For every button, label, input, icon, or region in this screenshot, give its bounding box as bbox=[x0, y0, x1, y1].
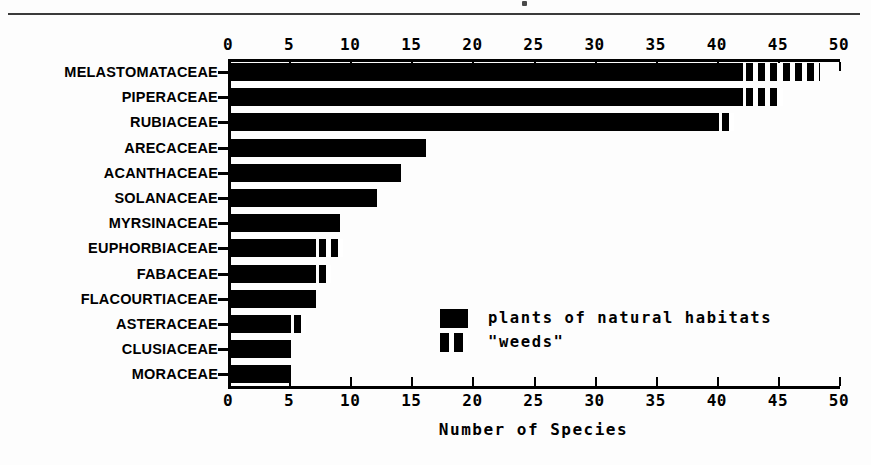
x-tick-bottom-20 bbox=[472, 377, 474, 386]
x-ticklabel-bottom-5: 5 bbox=[284, 391, 294, 410]
y-tick-11 bbox=[218, 348, 228, 351]
x-ticklabel-bottom-30: 30 bbox=[584, 391, 604, 410]
x-tick-bottom-25 bbox=[534, 377, 536, 386]
bar-segment-weeds bbox=[294, 315, 306, 333]
x-ticklabel-bottom-50: 50 bbox=[829, 391, 849, 410]
legend-entry-weeds: "weeds" bbox=[440, 330, 772, 354]
category-label: MORACEAE bbox=[132, 366, 218, 382]
category-label: MELASTOMATACEAE bbox=[64, 64, 218, 80]
chart-legend: plants of natural habitats "weeds" bbox=[440, 306, 772, 354]
bar-segment-natural bbox=[230, 88, 743, 106]
x-ticklabel-top-15: 15 bbox=[401, 35, 421, 54]
bar-segment-natural bbox=[230, 164, 401, 182]
bar-segment-natural bbox=[230, 239, 316, 257]
bar-segment-natural bbox=[230, 189, 377, 207]
x-ticklabel-bottom-45: 45 bbox=[768, 391, 788, 410]
y-tick-7 bbox=[218, 247, 228, 250]
y-tick-5 bbox=[218, 197, 228, 200]
y-tick-4 bbox=[218, 172, 228, 175]
legend-entry-natural: plants of natural habitats bbox=[440, 306, 772, 330]
category-label: ACANTHACEAE bbox=[104, 165, 218, 181]
legend-swatch-striped bbox=[440, 333, 468, 352]
y-tick-9 bbox=[218, 298, 228, 301]
bar-segment-natural bbox=[230, 340, 291, 358]
x-ticklabel-top-45: 45 bbox=[768, 35, 788, 54]
category-label: ASTERACEAE bbox=[116, 316, 218, 332]
category-label: FLACOURTIACEAE bbox=[81, 291, 218, 307]
x-ticklabel-bottom-35: 35 bbox=[646, 391, 666, 410]
x-ticklabel-top-35: 35 bbox=[646, 35, 666, 54]
x-ticklabel-top-10: 10 bbox=[340, 35, 360, 54]
x-ticklabel-top-0: 0 bbox=[223, 35, 233, 54]
x-ticklabel-top-25: 25 bbox=[523, 35, 543, 54]
x-tick-bottom-10 bbox=[350, 377, 352, 386]
x-ticklabel-top-30: 30 bbox=[584, 35, 604, 54]
bar-segment-weeds bbox=[746, 88, 783, 106]
category-label: CLUSIACEAE bbox=[122, 341, 218, 357]
y-tick-10 bbox=[218, 323, 228, 326]
x-ticklabel-bottom-25: 25 bbox=[523, 391, 543, 410]
bar-segment-natural bbox=[230, 315, 291, 333]
category-label: EUPHORBIACEAE bbox=[88, 240, 218, 256]
bar-segment-natural bbox=[230, 365, 291, 383]
bar-segment-weeds bbox=[746, 63, 819, 81]
legend-label-weeds: "weeds" bbox=[488, 333, 565, 351]
category-label: MYRSINACEAE bbox=[109, 215, 218, 231]
bar-segment-weeds bbox=[722, 113, 734, 131]
x-tick-bottom-50 bbox=[839, 377, 841, 386]
bar-segment-natural bbox=[230, 63, 743, 81]
y-tick-3 bbox=[218, 147, 228, 150]
x-ticklabel-top-20: 20 bbox=[462, 35, 482, 54]
y-tick-1 bbox=[218, 96, 228, 99]
category-label: FABACEAE bbox=[137, 266, 218, 282]
bar-segment-natural bbox=[230, 265, 316, 283]
x-tick-bottom-15 bbox=[411, 377, 413, 386]
y-tick-0 bbox=[218, 71, 228, 74]
x-ticklabel-bottom-15: 15 bbox=[401, 391, 421, 410]
legend-swatch-solid bbox=[440, 309, 468, 328]
x-ticklabel-bottom-10: 10 bbox=[340, 391, 360, 410]
category-label: SOLANACEAE bbox=[114, 190, 218, 206]
y-tick-2 bbox=[218, 121, 228, 124]
bar-segment-natural bbox=[230, 139, 426, 157]
bar-segment-weeds bbox=[319, 265, 331, 283]
x-ticklabel-top-40: 40 bbox=[707, 35, 727, 54]
y-tick-12 bbox=[218, 373, 228, 376]
x-tick-bottom-30 bbox=[595, 377, 597, 386]
x-tick-top-50 bbox=[839, 62, 841, 71]
legend-label-natural: plants of natural habitats bbox=[488, 309, 772, 327]
x-tick-bottom-40 bbox=[717, 377, 719, 386]
y-tick-8 bbox=[218, 273, 228, 276]
y-tick-6 bbox=[218, 222, 228, 225]
x-tick-bottom-35 bbox=[656, 377, 658, 386]
category-axis-labels: MELASTOMATACEAEPIPERACEAERUBIACEAEARECAC… bbox=[0, 59, 218, 389]
x-ticklabel-bottom-40: 40 bbox=[707, 391, 727, 410]
axis-line-bottom bbox=[228, 386, 840, 389]
category-label: RUBIACEAE bbox=[130, 114, 218, 130]
x-ticklabel-bottom-0: 0 bbox=[223, 391, 233, 410]
category-label: PIPERACEAE bbox=[122, 89, 218, 105]
bar-segment-natural bbox=[230, 214, 340, 232]
page-divider-rule bbox=[8, 13, 860, 15]
x-axis-title: Number of Species bbox=[228, 420, 839, 439]
x-ticklabel-top-50: 50 bbox=[829, 35, 849, 54]
page-artifact-speck bbox=[522, 1, 527, 6]
x-ticklabel-top-5: 5 bbox=[284, 35, 294, 54]
x-tick-bottom-45 bbox=[778, 377, 780, 386]
bar-chart-figure: MELASTOMATACEAEPIPERACEAERUBIACEAEARECAC… bbox=[0, 0, 871, 465]
bar-segment-natural bbox=[230, 113, 719, 131]
bar-segment-weeds bbox=[319, 239, 343, 257]
x-ticklabel-bottom-20: 20 bbox=[462, 391, 482, 410]
category-label: ARECACEAE bbox=[124, 140, 218, 156]
bar-segment-natural bbox=[230, 290, 316, 308]
